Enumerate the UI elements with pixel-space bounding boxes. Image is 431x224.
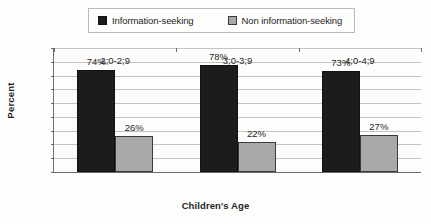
x-tick-label: 2;0-2;9 [54,55,176,66]
bar [200,65,238,172]
bar [238,142,276,172]
bar-value-label: 26% [105,122,163,133]
y-tick-mark [51,131,54,132]
plot-area: 90%80%70%60%50%40%30%20%10%0%74%26%2;0-2… [53,48,421,173]
bar-value-label: 27% [350,121,408,132]
x-tick-mark [421,48,422,52]
y-tick-mark [51,103,54,104]
x-tick-label: 3;0-3;9 [176,55,298,66]
x-tick-mark [54,48,55,52]
bar-chart: Information-seeking Non information-seek… [0,0,431,224]
y-tick-mark [51,117,54,118]
y-tick-mark [51,89,54,90]
dark-swatch-icon [98,16,107,25]
legend-item-non-information-seeking: Non information-seeking [228,9,343,32]
bar [77,70,115,172]
bar-value-label: 22% [228,128,286,139]
bar [360,135,398,172]
legend-label: Information-seeking [112,15,194,26]
light-swatch-icon [228,16,237,25]
x-tick-label: 4;0-4;9 [299,55,421,66]
x-tick-mark [299,48,300,52]
chart-legend: Information-seeking Non information-seek… [88,8,355,33]
legend-item-information-seeking: Information-seeking [98,9,194,32]
y-tick-mark [51,76,54,77]
x-axis-title: Children's Age [0,200,431,211]
legend-label: Non information-seeking [242,15,343,26]
gridline [54,48,421,49]
x-tick-mark [176,48,177,52]
bar [115,136,153,172]
y-axis-title: Percent [5,69,16,133]
y-tick-mark [51,172,54,173]
y-tick-mark [51,144,54,145]
y-tick-mark [51,158,54,159]
